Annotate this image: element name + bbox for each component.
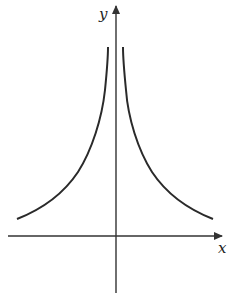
x-axis-label: x (218, 239, 227, 257)
curve-right-branch (123, 47, 213, 219)
graph-canvas: y x (0, 0, 227, 302)
y-axis-label: y (98, 5, 108, 23)
curve-left-branch (17, 47, 108, 219)
